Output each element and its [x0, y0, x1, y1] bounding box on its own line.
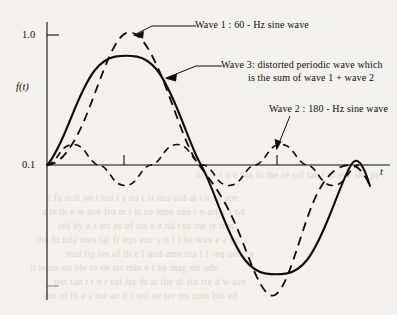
annotation-wave2: Wave 2 : 180 - Hz sine wave	[269, 103, 388, 114]
wave3-leader-line	[166, 66, 196, 78]
x-axis-label: t	[380, 166, 383, 177]
plot-area	[0, 0, 397, 315]
annotation-wave3-line2: is the sum of wave 1 + wave 2	[248, 72, 374, 83]
figure-container: i fu ncti on t hat i s no t si nus oid a…	[0, 0, 397, 315]
y-tick-label-1.0: 1.0	[22, 29, 35, 40]
annotation-wave1: Wave 1 : 60 - Hz sine wave	[195, 19, 309, 30]
y-tick-label-0.1: 0.1	[22, 159, 35, 170]
y-axis-label: f(t)	[16, 81, 29, 92]
annotation-wave3-line1: Wave 3: distorted periodic wave which	[221, 59, 383, 70]
